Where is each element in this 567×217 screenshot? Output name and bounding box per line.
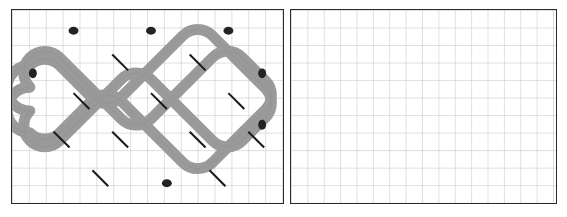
apex-marker <box>146 27 156 35</box>
apex-marker <box>69 27 79 35</box>
apex-marker <box>223 27 233 35</box>
figure-root <box>0 0 567 217</box>
apex-marker <box>29 68 37 78</box>
knot-panel-canvas <box>12 10 283 203</box>
apex-marker <box>258 68 266 78</box>
knot-panel <box>11 9 284 204</box>
apex-marker <box>258 120 266 130</box>
grid-lines <box>291 10 556 203</box>
empty-grid-canvas <box>291 10 556 203</box>
apex-marker <box>162 179 172 187</box>
empty-grid-panel <box>290 9 557 204</box>
